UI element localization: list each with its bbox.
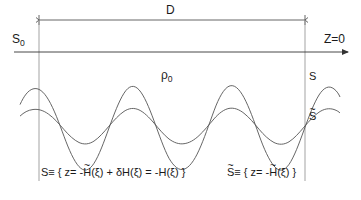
dimension-arrowhead-right <box>305 18 308 23</box>
equation-right-H-tilde: ~H <box>269 167 277 178</box>
tilde-accent-mark: ~ <box>270 161 276 171</box>
equation-left-H-tilde: ~H <box>83 167 91 178</box>
tilde-accent-mark: ~ <box>310 105 316 115</box>
label-s0-subscript: 0 <box>20 38 25 48</box>
curve-label-S-tilde: ~S <box>309 111 316 122</box>
curve-surface-S <box>20 86 340 171</box>
curve-label-S-tilde-glyph: ~S <box>309 111 316 122</box>
tilde-accent-mark: ~ <box>228 161 234 171</box>
equation-right-S-tilde: ~S <box>227 167 234 178</box>
tilde-accent-mark: ~ <box>84 161 90 171</box>
dimension-label-D: D <box>166 4 175 16</box>
equation-right-suffix: (ξ) } <box>277 166 296 178</box>
equation-right-surface-S-tilde: ~S≡ { z= -~H(ξ) } <box>227 167 296 178</box>
diagram-canvas: D S0 Z=0 ρ0 S ~S S≡ { z= -~H(ξ) + δH(ξ) … <box>0 0 361 200</box>
curve-surface-S-tilde <box>20 108 340 144</box>
label-rho-base: ρ <box>161 68 168 82</box>
label-s0-base: S <box>12 32 20 46</box>
label-left-surface-s0: S0 <box>12 33 25 48</box>
curve-label-S: S <box>309 71 316 82</box>
axis-label-z-equals-zero: Z=0 <box>324 33 345 45</box>
equation-left-prefix: S≡ { z= - <box>41 166 83 178</box>
equation-left-surface-S: S≡ { z= -~H(ξ) + δH(ξ) = -H(ξ) } <box>41 167 185 178</box>
equation-right-mid: ≡ { z= - <box>234 166 269 178</box>
equation-left-suffix: (ξ) + δH(ξ) = -H(ξ) } <box>91 166 185 178</box>
label-density-rho0: ρ0 <box>161 69 173 84</box>
label-rho-subscript: 0 <box>168 74 173 84</box>
